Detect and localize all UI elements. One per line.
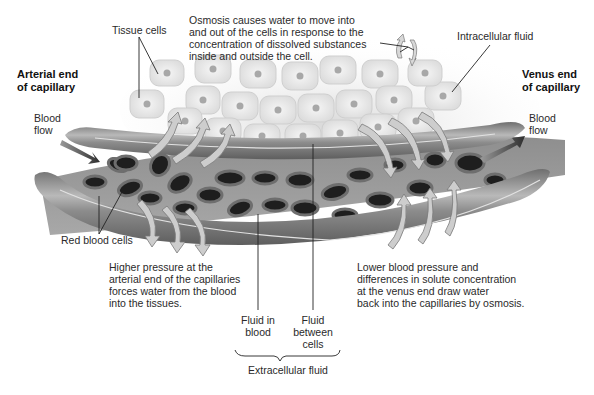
higher-pressure-note: Higher pressure at the arterial end of t… (109, 261, 240, 309)
lower-pressure-note: Lower blood pressure and differences in … (357, 261, 525, 309)
osmosis-note: Osmosis causes water to move into and ou… (189, 14, 366, 62)
blood-flow-left-label: Blood flow (34, 112, 61, 136)
extracellular-fluid-label: Extracellular fluid (248, 364, 328, 376)
capillary-diagram: Tissue cells Osmosis causes water to mov… (0, 0, 594, 395)
red-blood-cells-label: Red blood cells (61, 234, 133, 246)
arterial-end-label: Arterial end of capillary (17, 68, 78, 94)
fluid-in-blood-label: Fluid in blood (238, 314, 278, 338)
blood-flow-right-label: Blood flow (529, 112, 556, 136)
fluid-between-cells-label: Fluid between cells (290, 314, 336, 350)
venus-end-label: Venus end of capillary (522, 68, 580, 94)
intracellular-fluid-label: Intracellular fluid (457, 30, 533, 42)
tissue-cells-label: Tissue cells (112, 24, 166, 36)
